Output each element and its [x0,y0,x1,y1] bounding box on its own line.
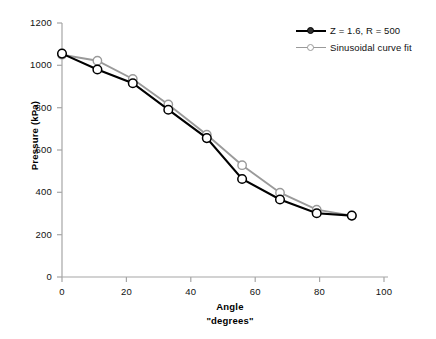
x-tick-label-0: 0 [47,286,77,297]
y-tick-label-0: 0 [18,271,52,282]
x-axis-title-line-2: "degrees" [150,314,310,328]
y-tick-label-200: 200 [18,229,52,240]
chart-legend: Z = 1.6, R = 500 Sinusoidal curve fit [296,22,428,56]
x-tick-label-20: 20 [111,286,141,297]
y-axis-ticks [57,23,62,277]
x-axis-ticks [62,277,384,282]
legend-swatch-measured [296,25,326,37]
legend-swatch-fit [296,42,326,54]
legend-item-z16-r500: Z = 1.6, R = 500 [296,22,428,39]
legend-label-z16-r500: Z = 1.6, R = 500 [330,25,400,36]
x-tick-label-80: 80 [305,286,335,297]
y-tick-label-1000: 1000 [18,59,52,70]
legend-label-sinusoidal-curve-fit: Sinusoidal curve fit [330,42,412,53]
y-axis-title: Pressure (kPa) [29,76,40,196]
x-tick-label-40: 40 [176,286,206,297]
x-axis-title-line-1: Angle [150,300,310,314]
y-tick-label-1200: 1200 [18,17,52,28]
series-z16-r500 [58,49,356,220]
x-tick-label-100: 100 [369,286,399,297]
x-axis-title: Angle "degrees" [150,300,310,328]
legend-item-sinusoidal-curve-fit: Sinusoidal curve fit [296,39,428,56]
x-tick-label-60: 60 [240,286,270,297]
pressure-vs-angle-chart: 1200 1000 800 600 400 200 0 0 20 40 60 8… [0,0,436,339]
